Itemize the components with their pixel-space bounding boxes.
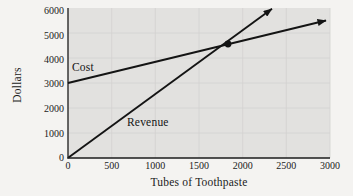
break-even-point-marker xyxy=(225,41,232,48)
x-tick-label-1000: 1000 xyxy=(138,160,172,171)
x-tick-label-1500: 1500 xyxy=(182,160,216,171)
y-tick-label-4000: 4000 xyxy=(30,54,64,65)
series-label-cost: Cost xyxy=(72,61,94,73)
x-axis-title: Tubes of Toothpaste xyxy=(68,176,330,188)
y-tick-label-2000: 2000 xyxy=(30,103,64,114)
y-tick-label-1000: 1000 xyxy=(30,128,64,139)
y-tick-label-3000: 3000 xyxy=(30,78,64,89)
y-tick-label-5000: 5000 xyxy=(30,30,64,41)
x-tick-label-2500: 2500 xyxy=(269,160,303,171)
y-tick-label-6000: 6000 xyxy=(30,5,64,16)
x-tick-label-500: 500 xyxy=(95,160,129,171)
y-axis-title: Dollars xyxy=(11,47,23,123)
chart-figure: 6000 5000 4000 3000 2000 1000 0 0 500 10… xyxy=(0,0,353,196)
x-tick-label-3000: 3000 xyxy=(313,160,347,171)
x-tick-label-0: 0 xyxy=(51,160,85,171)
x-tick-label-2000: 2000 xyxy=(226,160,260,171)
series-label-revenue: Revenue xyxy=(127,116,169,128)
